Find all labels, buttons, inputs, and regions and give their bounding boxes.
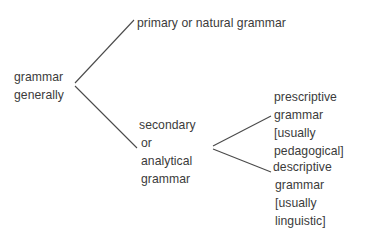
node-line: grammar bbox=[139, 170, 196, 188]
edge-root-to-primary bbox=[75, 20, 134, 83]
node-line: or bbox=[139, 134, 196, 152]
node-line: [usually bbox=[274, 124, 344, 142]
node-prescriptive-grammar: prescriptive grammar [usually pedagogica… bbox=[274, 88, 344, 160]
edge-root-to-secondary bbox=[75, 86, 137, 148]
edge-secondary-to-descriptive bbox=[213, 149, 271, 172]
node-grammar-generally: grammar generally bbox=[14, 68, 64, 104]
node-line: analytical bbox=[139, 152, 196, 170]
grammar-tree-diagram: grammar generally primary or natural gra… bbox=[0, 0, 372, 241]
node-secondary-or-analytical-grammar: secondary or analytical grammar bbox=[139, 116, 196, 188]
node-line: primary or natural grammar bbox=[137, 14, 286, 32]
node-line: secondary bbox=[139, 116, 196, 134]
node-line: grammar bbox=[14, 68, 64, 86]
node-line: grammar bbox=[274, 106, 344, 124]
node-line: descriptive bbox=[273, 158, 332, 176]
node-line: grammar bbox=[273, 176, 332, 194]
edge-secondary-to-prescriptive bbox=[213, 116, 271, 146]
node-descriptive-grammar: descriptive grammar [usually linguistic] bbox=[273, 158, 332, 230]
node-line: prescriptive bbox=[274, 88, 344, 106]
node-primary-or-natural-grammar: primary or natural grammar bbox=[137, 14, 286, 32]
node-line: generally bbox=[14, 86, 64, 104]
node-line: [usually bbox=[273, 194, 332, 212]
node-line: linguistic] bbox=[273, 212, 332, 230]
